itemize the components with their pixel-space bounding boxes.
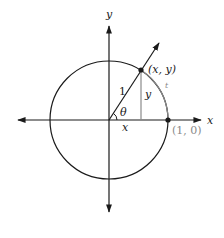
point-10-label: (1, 0) <box>172 124 202 137</box>
angle-arc <box>114 113 118 120</box>
radius-label: 1 <box>119 85 126 98</box>
arc-t-label: t <box>165 81 169 90</box>
y-axis-label: y <box>105 8 113 21</box>
x-axis-label: x <box>207 114 214 127</box>
horizontal-leg-label: x <box>122 121 129 134</box>
unit-circle-diagram: y x (x, y) (1, 0) 1 θ x y t <box>0 0 224 238</box>
point-xy-label: (x, y) <box>148 63 176 76</box>
vertical-leg-label: y <box>144 88 152 101</box>
angle-label: θ <box>120 106 127 119</box>
point-xy-dot <box>138 67 143 72</box>
point-10-dot <box>165 117 170 122</box>
terminal-ray <box>109 43 159 120</box>
